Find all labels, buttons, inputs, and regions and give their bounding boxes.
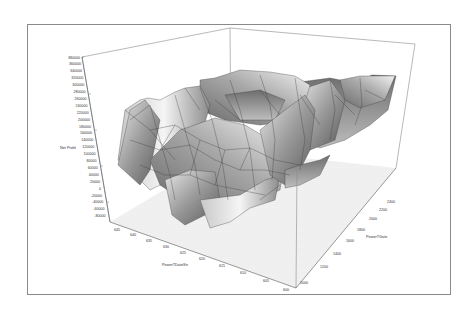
y-tick-label: 1600 — [346, 239, 354, 243]
x-tick-label: 630 — [163, 245, 169, 249]
x-axis-title: PowerTDateStr — [162, 263, 189, 267]
surface-plot: 380000 360000 340000 320000 300000 28000… — [0, 0, 476, 315]
z-tick-label: 280000 — [73, 90, 85, 94]
x-tick-label: 645 — [114, 228, 120, 232]
z-tick-label: 80000 — [87, 159, 97, 163]
z-tick-label: 120000 — [82, 145, 94, 149]
y-tick-label: 2000 — [369, 217, 377, 221]
z-tick-label: 20000 — [90, 180, 100, 184]
z-axis-title: Net Profit — [60, 146, 77, 150]
x-tick-label: 625 — [180, 251, 186, 255]
z-tick-label: 140000 — [81, 138, 93, 142]
z-tick-label: 340000 — [70, 69, 82, 73]
z-axis: 380000 360000 340000 320000 300000 28000… — [60, 56, 109, 219]
z-tick-label: 160000 — [80, 131, 92, 135]
z-tick-label: 0 — [99, 187, 101, 191]
z-tick-label: -40000 — [92, 200, 103, 204]
z-tick-label: 220000 — [77, 111, 89, 115]
x-tick-label: 605 — [263, 279, 269, 283]
z-tick-label: 380000 — [68, 56, 80, 60]
z-tick-label: -60000 — [93, 207, 104, 211]
y-tick-label: 1800 — [357, 228, 365, 232]
z-tick-label: 60000 — [88, 166, 98, 170]
z-tick-label: -20000 — [91, 194, 102, 198]
x-tick-label: 635 — [146, 239, 152, 243]
x-tick-label: 640 — [130, 233, 136, 237]
y-axis-title: PowerTGate — [366, 235, 387, 239]
z-tick-label: 100000 — [83, 152, 95, 156]
x-tick-label: 600 — [283, 288, 289, 292]
y-tick-label: 2200 — [379, 208, 387, 212]
x-tick-label: 620 — [199, 257, 205, 261]
z-tick-label: 260000 — [75, 97, 87, 101]
z-tick-label: -80000 — [94, 214, 105, 218]
y-tick-label: 1200 — [320, 265, 328, 269]
y-tick-label: 2400 — [387, 200, 395, 204]
z-tick-label: 300000 — [72, 83, 84, 87]
z-tick-label: 180000 — [79, 125, 91, 129]
x-tick-label: 615 — [219, 264, 225, 268]
z-tick-label: 200000 — [78, 118, 90, 122]
y-tick-label: 1000 — [300, 281, 308, 285]
z-tick-label: 40000 — [89, 173, 99, 177]
y-tick-label: 1400 — [333, 252, 341, 256]
x-tick-label: 610 — [240, 271, 246, 275]
z-tick-label: 320000 — [71, 76, 83, 80]
z-tick-label: 360000 — [69, 62, 81, 66]
z-tick-label: 240000 — [76, 104, 88, 108]
